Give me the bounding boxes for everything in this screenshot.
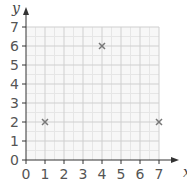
- y-axis-label: y: [11, 0, 21, 16]
- x-tick-label: 3: [79, 166, 88, 182]
- x-tick-label: 7: [155, 166, 164, 182]
- y-tick-label: 6: [10, 38, 19, 54]
- y-tick-label: 1: [10, 133, 19, 149]
- scatter-chart: 0123456701234567 x y: [0, 0, 187, 191]
- x-tick-label: 0: [22, 166, 31, 182]
- y-axis-arrow-icon: [23, 7, 29, 15]
- x-tick-label: 6: [136, 166, 145, 182]
- y-tick-label: 3: [10, 95, 19, 111]
- x-axis-arrow-icon: [171, 157, 179, 163]
- x-tick-label: 4: [98, 166, 107, 182]
- x-tick-label: 1: [41, 166, 50, 182]
- y-tick-label: 2: [10, 114, 19, 130]
- y-tick-label: 7: [10, 19, 19, 35]
- y-tick-label: 0: [10, 152, 19, 168]
- y-tick-label: 5: [10, 57, 19, 73]
- y-tick-label: 4: [10, 76, 19, 92]
- x-tick-label: 2: [60, 166, 69, 182]
- x-axis-label: x: [183, 164, 187, 180]
- x-tick-label: 5: [117, 166, 126, 182]
